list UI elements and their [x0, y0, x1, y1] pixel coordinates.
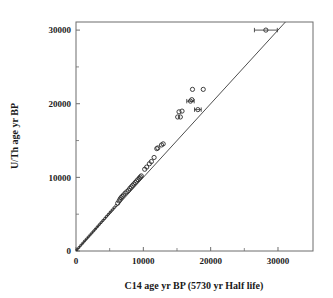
plot-frame	[76, 22, 313, 251]
x-axis-title: C14 age yr BP (5730 yr Half life)	[125, 280, 264, 292]
data-point-marker	[102, 219, 104, 221]
data-point-marker	[178, 115, 182, 119]
y-tick-label: 20000	[49, 99, 72, 109]
y-axis-title: U/Th age yr BP	[9, 103, 20, 169]
y-tick-label: 10000	[49, 173, 72, 183]
x-tick-label: 20000	[199, 256, 222, 266]
data-point-marker	[152, 155, 156, 159]
scatter-plot-canvas: 0100002000030000 0100002000030000 C14 ag…	[0, 0, 333, 298]
y-tick-label: 30000	[49, 25, 72, 35]
x-tick-label: 30000	[267, 256, 290, 266]
error-bars	[187, 28, 278, 112]
data-point-marker	[201, 87, 205, 91]
x-tick-label: 0	[74, 256, 79, 266]
data-point-marker	[104, 217, 106, 219]
y-axis-tick-labels: 0100002000030000	[49, 25, 72, 256]
chart-figure: 0100002000030000 0100002000030000 C14 ag…	[0, 0, 333, 298]
data-point-marker	[190, 87, 194, 91]
x-tick-label: 10000	[132, 256, 155, 266]
x-axis-tick-labels: 0100002000030000	[74, 256, 290, 266]
y-tick-label: 0	[67, 246, 72, 256]
data-point-markers	[76, 28, 268, 251]
